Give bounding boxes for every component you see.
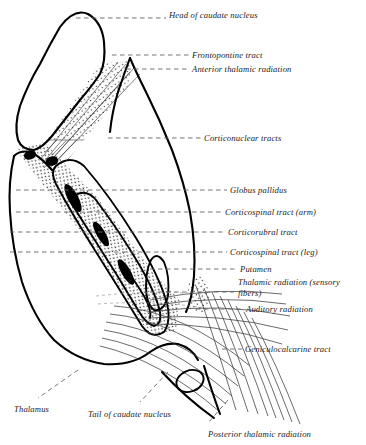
label-globus-pallidus: Globus pallidus [230,185,287,196]
label-anterior-thalamic-radiation: Anterior thalamic radiation [192,64,292,75]
label-corticospinal-tract-arm: Corticospinal tract (arm) [225,207,316,218]
label-thalamus: Thalamus [14,404,49,415]
tail-of-caudate-oval [173,366,207,396]
leader-tail-of-caudate [140,372,168,402]
label-frontopontine-tract: Frontopontine tract [192,50,263,61]
label-corticospinal-tract-leg: Corticospinal tract (leg) [230,247,318,258]
label-geniculocalcarine-tract: Geniculocalcarine tract [245,344,331,355]
label-head-of-caudate-nucleus: Head of caudate nucleus [169,10,258,21]
label-posterior-thalamic-radiation: Posterior thalamic radiation [208,429,311,440]
internal-capsule-stipple [0,130,220,350]
label-putamen: Putamen [240,264,272,275]
label-corticorubral-tract: Corticorubral tract [228,227,297,238]
anatomical-figure-root: Head of caudate nucleusFrontopontine tra… [0,0,366,445]
label-thalamic-radiation-sensory: Thalamic radiation (sensory fibers) [238,277,362,298]
brain-section-illustration [0,0,366,445]
label-tail-of-caudate-nucleus: Tail of caudate nucleus [88,409,171,420]
label-auditory-radiation: Auditory radiation [246,304,313,315]
leader-thalamus [38,370,78,398]
label-corticonuclear-tracts: Corticonuclear tracts [204,133,281,144]
